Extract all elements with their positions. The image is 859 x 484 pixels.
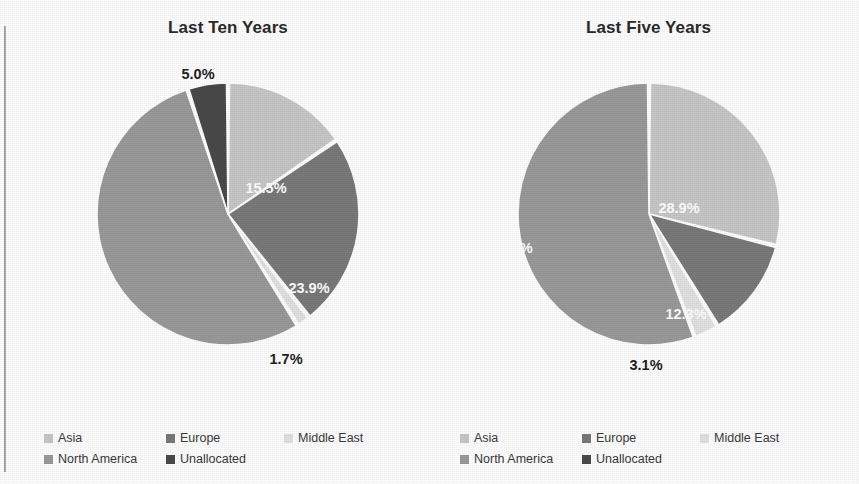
legend-swatch-icon xyxy=(44,455,53,464)
pie-value-label-europe: 12.3% xyxy=(665,306,706,322)
legend-item-label: Unallocated xyxy=(180,453,246,466)
chart-title-right: Last Five Years xyxy=(438,18,859,38)
pie-value-label-north-america: 53.9% xyxy=(72,270,113,286)
legend-item-unallocated: Unallocated xyxy=(582,453,700,466)
legend-item-label: Europe xyxy=(596,432,636,445)
pie-value-label-north-america: 55.6% xyxy=(491,240,532,256)
legend-right: AsiaEuropeMiddle EastNorth AmericaUnallo… xyxy=(438,428,859,470)
legend-swatch-icon xyxy=(582,455,591,464)
legend-swatch-icon xyxy=(44,434,53,443)
legend-swatch-icon xyxy=(460,434,469,443)
figure-root: Last Ten Years 15.5%23.9%1.7%53.9%5.0% A… xyxy=(0,0,859,484)
legend-item-north-america: North America xyxy=(44,453,166,466)
legend-item-label: North America xyxy=(474,453,553,466)
legend-swatch-icon xyxy=(284,434,293,443)
legend-item-label: Middle East xyxy=(298,432,363,445)
legend-item-label: Europe xyxy=(180,432,220,445)
chart-panel-last-ten-years: Last Ten Years 15.5%23.9%1.7%53.9%5.0% A… xyxy=(18,0,438,484)
pie-value-label-europe: 23.9% xyxy=(288,280,329,296)
legend-item-north-america: North America xyxy=(460,453,582,466)
legend-swatch-icon xyxy=(582,434,591,443)
legend-swatch-icon xyxy=(460,455,469,464)
legend-swatch-icon xyxy=(166,434,175,443)
page-edge-rule xyxy=(4,26,6,472)
legend-item-asia: Asia xyxy=(44,432,166,445)
pie-value-label-middle-east: 3.1% xyxy=(629,357,662,373)
pie-value-label-asia: 28.9% xyxy=(658,200,699,216)
legend-item-middle-east: Middle East xyxy=(700,432,859,445)
legend-item-label: Unallocated xyxy=(596,453,662,466)
pie-area-left: 15.5%23.9%1.7%53.9%5.0% xyxy=(18,62,438,382)
pie-chart-left xyxy=(73,62,383,372)
pie-area-right: 28.9%12.3%3.1%55.6% xyxy=(438,62,859,382)
legend-item-label: Asia xyxy=(474,432,498,445)
legend-item-label: North America xyxy=(58,453,137,466)
legend-left: AsiaEuropeMiddle EastNorth AmericaUnallo… xyxy=(18,428,438,470)
chart-title-left: Last Ten Years xyxy=(18,18,438,38)
pie-value-label-middle-east: 1.7% xyxy=(269,351,302,367)
legend-item-europe: Europe xyxy=(582,432,700,445)
legend-item-label: Middle East xyxy=(714,432,779,445)
legend-item-middle-east: Middle East xyxy=(284,432,438,445)
legend-item-asia: Asia xyxy=(460,432,582,445)
legend-item-europe: Europe xyxy=(166,432,284,445)
legend-swatch-icon xyxy=(166,455,175,464)
pie-chart-right xyxy=(494,62,804,372)
pie-value-label-asia: 15.5% xyxy=(245,180,286,196)
legend-swatch-icon xyxy=(700,434,709,443)
pie-value-label-unallocated: 5.0% xyxy=(181,66,214,82)
legend-item-label: Asia xyxy=(58,432,82,445)
legend-item-unallocated: Unallocated xyxy=(166,453,284,466)
chart-panel-last-five-years: Last Five Years 28.9%12.3%3.1%55.6% Asia… xyxy=(438,0,859,484)
